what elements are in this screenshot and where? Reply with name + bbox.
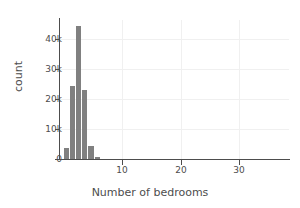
histogram-chart: 0 10k 20k 30k 40k 10 20 30 Number of bed… [0,0,300,208]
x-tick-label-30: 30 [233,166,244,175]
bar-bedrooms-4 [82,90,87,160]
bar-bedrooms-5 [88,146,93,159]
x-axis-title: Number of bedrooms [0,186,300,199]
bars-container [60,20,290,159]
bar-bedrooms-2 [70,86,75,159]
bar-bedrooms-3 [76,26,81,159]
x-tick-label-10: 10 [116,166,127,175]
bar-bedrooms-6 [95,157,100,159]
x-tick-label-20: 20 [175,166,186,175]
x-axis-line [59,159,290,160]
y-axis-title: count [12,37,25,117]
bar-bedrooms-1 [64,148,69,159]
